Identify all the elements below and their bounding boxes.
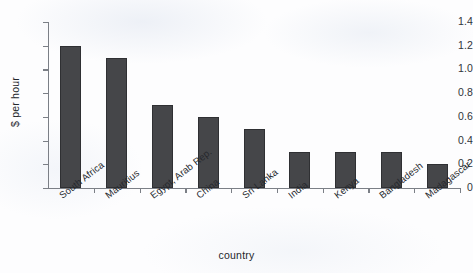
x-axis-tick [323, 188, 324, 193]
y-axis-tick-label: 1.0 [439, 62, 473, 74]
y-axis-tick [43, 164, 48, 165]
y-axis-tick [43, 69, 48, 70]
x-axis-tick [460, 188, 461, 193]
x-axis-tick [277, 188, 278, 193]
y-axis-title: $ per hour [9, 62, 21, 142]
y-axis-tick [43, 188, 48, 189]
x-axis-tick [140, 188, 141, 193]
y-axis-tick [43, 117, 48, 118]
x-axis-tick [414, 188, 415, 193]
x-axis-tick [231, 188, 232, 193]
bar [106, 58, 127, 188]
x-axis-tick [94, 188, 95, 193]
y-axis-tick [43, 141, 48, 142]
bar-chart: 00.20.40.60.81.01.21.4 South AfricaMauri… [0, 0, 473, 273]
y-axis-tick [43, 93, 48, 94]
y-axis-tick [43, 22, 48, 23]
y-axis-line [48, 22, 49, 189]
y-axis-tick-label: 0.4 [439, 134, 473, 146]
x-axis-title: country [0, 249, 473, 261]
y-axis-tick-label: 1.2 [439, 39, 473, 51]
x-axis-tick [368, 188, 369, 193]
y-axis-tick-label: 1.4 [439, 15, 473, 27]
x-axis-tick [185, 188, 186, 193]
y-axis-tick-label: 0.8 [439, 86, 473, 98]
y-axis-tick-label: 0.6 [439, 110, 473, 122]
bar [60, 46, 81, 188]
y-axis-tick [43, 46, 48, 47]
